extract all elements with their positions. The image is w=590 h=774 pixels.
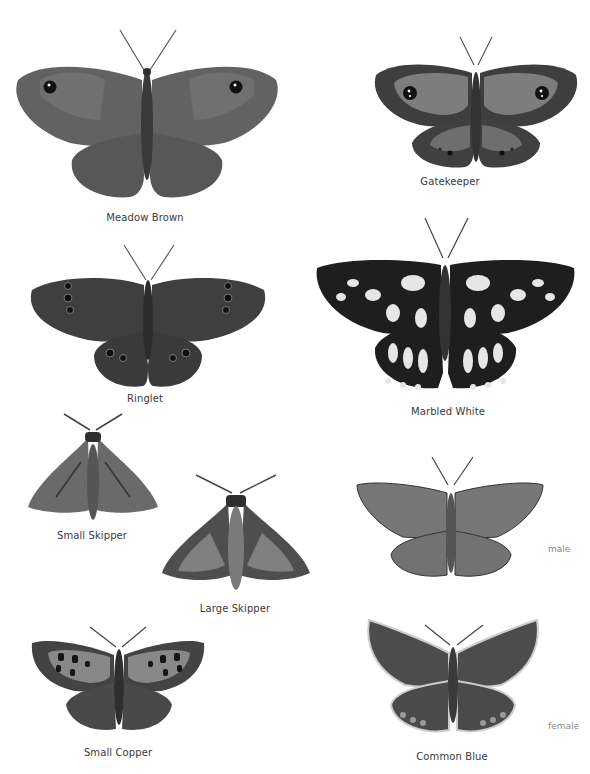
specimen-large-skipper <box>160 473 310 593</box>
ringlet-illustration <box>28 240 268 390</box>
caption-common-blue: Common Blue <box>416 751 487 762</box>
specimen-gatekeeper <box>370 35 580 170</box>
eyespot <box>44 81 57 94</box>
small-skipper-illustration <box>26 412 161 522</box>
caption-marbled-white: Marbled White <box>411 406 485 417</box>
specimen-small-skipper <box>26 412 161 522</box>
label-common-blue-female: female <box>548 721 579 731</box>
marbled-white-illustration <box>313 213 578 393</box>
specimen-marbled-white <box>313 213 578 393</box>
caption-large-skipper: Large Skipper <box>200 603 271 614</box>
specimen-small-copper <box>30 625 205 735</box>
label-common-blue-male: male <box>548 544 570 554</box>
caption-ringlet: Ringlet <box>127 393 163 404</box>
caption-meadow-brown: Meadow Brown <box>106 212 183 223</box>
small-copper-illustration <box>30 625 205 735</box>
common-blue-female-illustration <box>365 615 540 735</box>
specimen-ringlet <box>28 240 268 390</box>
caption-gatekeeper: Gatekeeper <box>420 176 479 187</box>
specimen-meadow-brown <box>10 25 280 205</box>
specimen-common-blue-female <box>365 615 540 735</box>
specimen-common-blue-male <box>355 455 545 580</box>
large-skipper-illustration <box>160 473 310 593</box>
meadow-brown-illustration <box>10 25 280 205</box>
common-blue-male-illustration <box>355 455 545 580</box>
gatekeeper-illustration <box>370 35 580 170</box>
caption-small-copper: Small Copper <box>84 747 152 758</box>
caption-small-skipper: Small Skipper <box>57 530 127 541</box>
